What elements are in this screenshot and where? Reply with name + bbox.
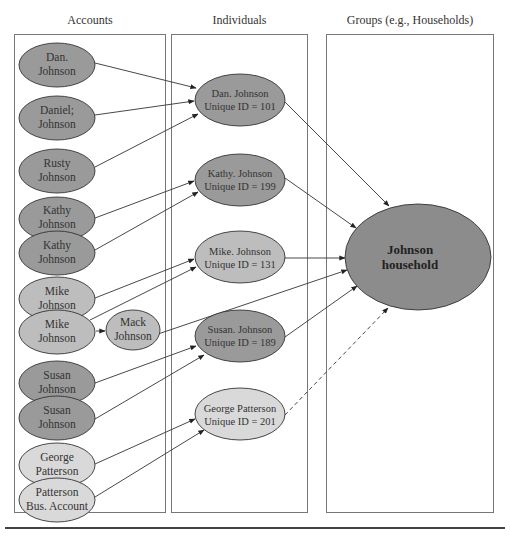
individual-mike-johnson-131[interactable]: Mike. Johnson Unique ID = 131 xyxy=(195,231,285,283)
node-text-line1: Daniel; xyxy=(40,104,74,116)
node-text-line2: household xyxy=(382,257,439,272)
node-text-line2: Johnson xyxy=(38,171,76,183)
node-text-line2: Unique ID = 199 xyxy=(204,181,276,192)
edge-kathy2-to-ind199 xyxy=(95,192,198,250)
edge-susan2-to-ind189 xyxy=(95,355,204,419)
node-text-line2: Johnson xyxy=(114,330,152,342)
edge-daniel-to-ind101 xyxy=(95,101,194,115)
account-rusty-johnson[interactable]: Rusty Johnson xyxy=(19,149,95,193)
node-text-line1: Susan xyxy=(43,369,71,381)
account-kathy-johnson-2[interactable]: Kathy Johnson xyxy=(19,231,95,275)
entity-resolution-diagram: Dan. Johnson Daniel; Johnson Rusty Johns… xyxy=(0,0,510,543)
node-text-line2: Bus. Account xyxy=(26,500,89,512)
individual-nodes: Dan. Johnson Unique ID = 101 Kathy. John… xyxy=(195,74,285,440)
node-text-line2: Unique ID = 201 xyxy=(204,416,276,427)
edge-ind189-to-household xyxy=(285,286,357,337)
node-text-line1: Mike xyxy=(45,318,69,330)
edge-ind101-to-household xyxy=(285,102,389,206)
node-text-line2: Johnson xyxy=(38,118,76,130)
node-text-line2: Johnson xyxy=(38,418,76,430)
node-text-line2: Johnson xyxy=(38,253,76,265)
node-text-line1: Susan. Johnson xyxy=(208,324,274,335)
edge-patbus-to-ind201 xyxy=(95,430,204,497)
edge-dan-to-ind101 xyxy=(95,63,196,88)
node-text-line2: Johnson xyxy=(38,218,76,230)
edge-rusty-to-ind101 xyxy=(95,114,198,167)
edge-kathy1-to-ind199 xyxy=(95,181,194,218)
group-nodes: Johnson household xyxy=(345,204,491,310)
node-text-line2: Unique ID = 131 xyxy=(204,259,276,270)
account-daniel-johnson[interactable]: Daniel; Johnson xyxy=(19,96,95,140)
edge-ind201-to-household xyxy=(285,308,388,415)
account-mike-johnson-2[interactable]: Mike Johnson xyxy=(19,310,95,354)
individual-kathy-johnson-199[interactable]: Kathy. Johnson Unique ID = 199 xyxy=(195,154,285,206)
node-text-line2: Unique ID = 189 xyxy=(204,337,276,348)
node-text-line1: Mack xyxy=(120,316,146,328)
account-nodes: Dan. Johnson Daniel; Johnson Rusty Johns… xyxy=(19,43,160,522)
account-mack-johnson[interactable]: Mack Johnson xyxy=(106,310,160,350)
node-text-line1: George xyxy=(40,451,74,464)
group-johnson-household[interactable]: Johnson household xyxy=(345,204,491,310)
individual-dan-johnson-101[interactable]: Dan. Johnson Unique ID = 101 xyxy=(195,74,285,126)
node-text-line2: Unique ID = 101 xyxy=(204,101,276,112)
node-text-line2: Patterson xyxy=(36,465,79,477)
node-text-line1: Kathy. Johnson xyxy=(208,168,273,179)
node-text-line1: Kathy xyxy=(43,239,71,252)
node-text-line1: Mike xyxy=(45,285,69,297)
individual-susan-johnson-189[interactable]: Susan. Johnson Unique ID = 189 xyxy=(195,310,285,362)
node-text-line1: Dan. Johnson xyxy=(211,88,269,99)
edge-george-to-ind201 xyxy=(95,419,195,464)
node-text-line1: Kathy xyxy=(43,204,71,217)
node-text-line1: Mike. Johnson xyxy=(209,246,272,257)
node-text-line1: Rusty xyxy=(44,157,71,170)
node-text-line2: Johnson xyxy=(38,332,76,344)
node-text-line1: George Patterson xyxy=(204,403,277,414)
edge-ind199-to-household xyxy=(285,178,356,228)
node-text-line1: Patterson xyxy=(36,486,79,498)
account-dan-johnson[interactable]: Dan. Johnson xyxy=(19,43,95,87)
account-patterson-bus-account[interactable]: Patterson Bus. Account xyxy=(19,478,95,522)
node-text-line2: Johnson xyxy=(38,65,76,77)
individual-george-patterson-201[interactable]: George Patterson Unique ID = 201 xyxy=(195,388,285,440)
edge-mike1-to-ind131 xyxy=(95,259,194,298)
node-text-line1: Dan. xyxy=(46,51,68,63)
node-text-line2: Johnson xyxy=(38,299,76,311)
account-susan-johnson-2[interactable]: Susan Johnson xyxy=(19,396,95,440)
edge-susan1-to-ind189 xyxy=(95,346,196,383)
bottom-rule xyxy=(5,527,505,529)
node-text-line2: Johnson xyxy=(38,383,76,395)
node-text-line1: Johnson xyxy=(387,242,434,257)
node-text-line1: Susan xyxy=(43,404,71,416)
